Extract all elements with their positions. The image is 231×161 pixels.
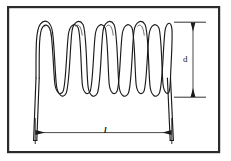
coil-spring-figure: d l — [0, 0, 231, 161]
coil-back-strand — [39, 25, 170, 94]
coil-inner-strand — [45, 25, 52, 35]
coil-inner-strand — [138, 25, 145, 35]
dimension-l-arrowhead-right — [163, 130, 172, 135]
coil-front-strand — [36, 21, 172, 96]
helical-spring — [36, 21, 172, 96]
figure-canvas — [0, 0, 231, 161]
dimension-d-label: d — [183, 55, 188, 64]
dimension-l-arrowhead-left — [35, 130, 45, 135]
dimension-d — [174, 22, 206, 97]
dimension-d-arrowhead-bottom — [191, 88, 196, 97]
figure-border — [8, 7, 219, 152]
dimension-d-arrowhead-top — [191, 22, 196, 31]
dimension-l-label: l — [104, 126, 107, 135]
coil-inner-strand — [107, 25, 114, 35]
